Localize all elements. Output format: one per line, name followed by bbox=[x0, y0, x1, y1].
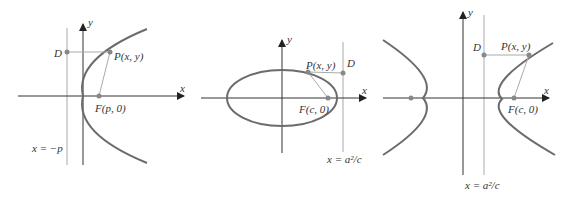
x-axis-label: x bbox=[179, 82, 185, 94]
x-axis-label: x bbox=[361, 84, 367, 96]
point-p-label: P(x, y) bbox=[500, 40, 531, 53]
point-p-label: P(x, y) bbox=[113, 50, 144, 63]
point-f-label: F(c, 0) bbox=[507, 103, 538, 116]
conic-sections-diagram: y x D P(x, y) F(p, 0) x = −p y x D P(x, … bbox=[0, 0, 563, 198]
point-f bbox=[512, 96, 517, 101]
point-d bbox=[482, 53, 487, 58]
parabola-figure: y x D P(x, y) F(p, 0) x = −p bbox=[18, 16, 185, 165]
y-axis-label: y bbox=[467, 6, 473, 18]
point-f-label: F(c, 0) bbox=[298, 103, 329, 116]
point-p bbox=[527, 53, 532, 58]
hyperbola-figure: y x D P(x, y) F(c, 0) x = a²/c bbox=[383, 6, 555, 191]
pd-segment bbox=[308, 72, 343, 73]
directrix-label: x = a²/c bbox=[326, 153, 362, 165]
y-axis-label: y bbox=[87, 16, 93, 28]
point-d bbox=[65, 50, 70, 55]
x-axis-label: x bbox=[543, 84, 549, 96]
point-f-label: F(p, 0) bbox=[94, 102, 126, 115]
point-d-label: D bbox=[472, 41, 481, 53]
pf-segment bbox=[514, 55, 529, 98]
point-f bbox=[326, 96, 331, 101]
point-d-label: D bbox=[346, 57, 355, 69]
point-f bbox=[97, 94, 102, 99]
point-p bbox=[108, 50, 113, 55]
point-d-label: D bbox=[53, 47, 62, 59]
directrix-label: x = a²/c bbox=[464, 179, 500, 191]
y-axis-label: y bbox=[286, 33, 292, 45]
directrix-label: x = −p bbox=[31, 142, 63, 154]
ellipse-figure: y x D P(x, y) F(c, 0) x = a²/c bbox=[201, 33, 367, 165]
point-d bbox=[341, 71, 346, 76]
point-p-label: P(x, y) bbox=[305, 59, 336, 72]
pf-segment bbox=[99, 52, 110, 96]
point-left-focus bbox=[409, 96, 414, 101]
